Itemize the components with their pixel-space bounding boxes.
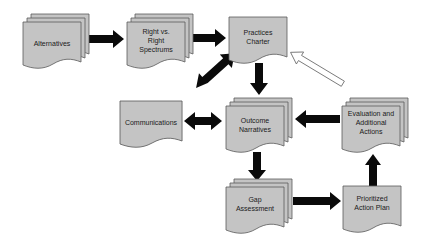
label-prioritized-action-plan-line1: Prioritized [356,195,387,202]
node-alternatives: Alternatives [23,14,89,68]
label-right-vs-right-line3: Spectrums [139,46,173,54]
arrow-outcome-narratives-to-gap-assessment [248,152,266,181]
node-practices-charter: Practices Charter [229,17,287,63]
arrow-alternatives-to-right-vs-right [88,30,124,48]
arrow-right-vs-right-to-practices-charter [191,29,226,47]
label-communications: Communications [125,119,178,126]
node-communications: Communications [120,101,182,147]
label-alternatives: Alternatives [34,40,71,47]
node-evaluation-additional-actions: Evaluation and Additional Actions [342,98,408,152]
arrow-evaluation-to-outcome-narratives [295,110,340,128]
label-right-vs-right-line2: Right [148,37,164,45]
arrow-communications-outcome-narratives-bidirectional [184,112,222,130]
node-outcome-narratives: Outcome Narratives [226,98,292,152]
arrow-practices-charter-to-outcome-narratives [250,63,268,95]
label-evaluation-line1: Evaluation and [348,110,394,117]
label-practices-charter-line1: Practices [244,29,273,36]
label-right-vs-right-line1: Right vs. [142,28,169,36]
label-gap-assessment-line2: Assessment [236,205,274,212]
label-evaluation-line2: Additional [356,119,387,126]
label-prioritized-action-plan-line2: Action Plan [354,204,390,211]
node-gap-assessment: Gap Assessment [226,179,292,233]
label-outcome-narratives-line1: Outcome [241,117,270,124]
node-prioritized-action-plan: Prioritized Action Plan [343,186,401,232]
label-evaluation-line3: Actions [360,128,383,135]
arrow-prioritized-action-plan-to-evaluation [365,154,381,186]
arrow-evaluation-to-practices-charter-hollow [287,46,346,89]
label-outcome-narratives-line2: Narratives [239,126,271,133]
label-practices-charter-line2: Charter [246,38,270,45]
arrow-gap-assessment-to-prioritized-action-plan [293,192,341,210]
label-gap-assessment-line1: Gap [248,196,261,204]
node-right-vs-right-spectrums: Right vs. Right Spectrums [127,14,193,68]
flow-diagram: Alternatives Right vs. Right Spectrums P… [0,0,427,243]
